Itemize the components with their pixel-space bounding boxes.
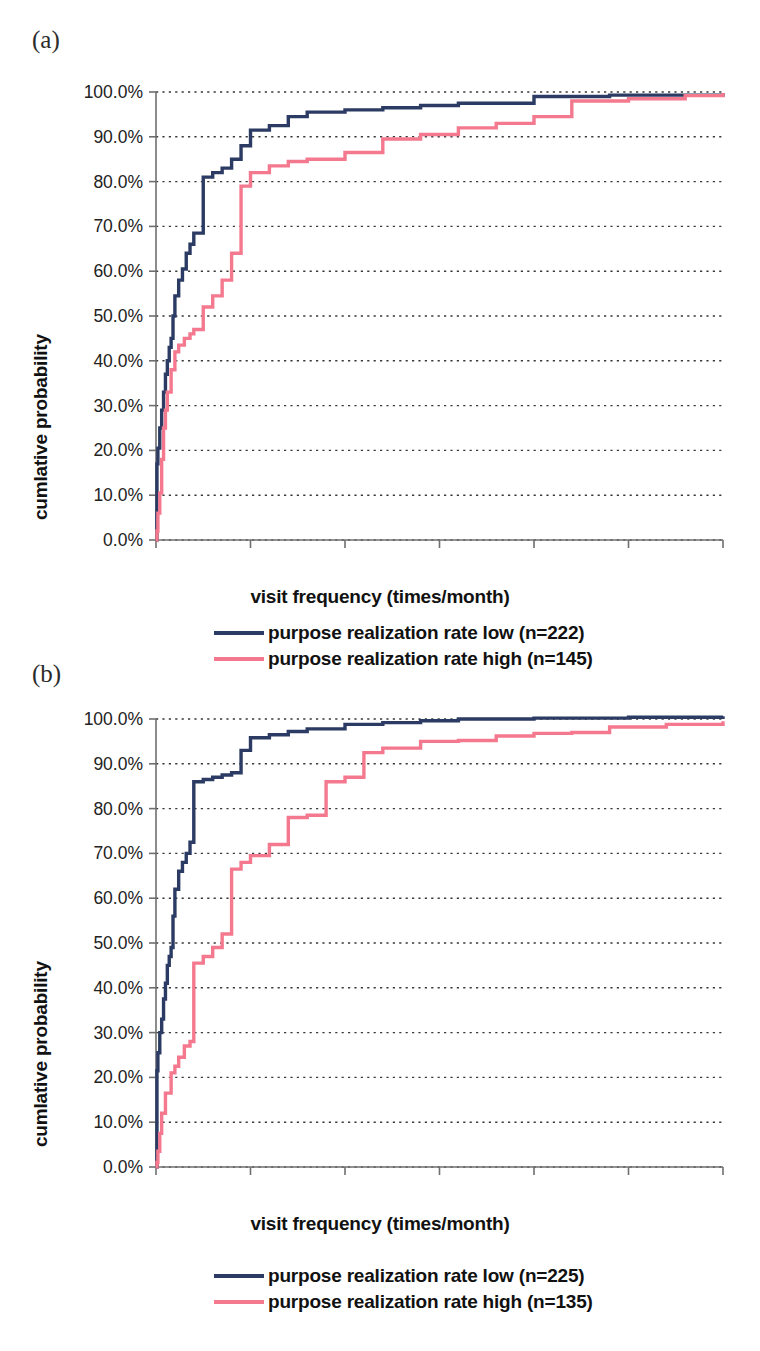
plot-area-b: 0.0%10.0%20.0%30.0%40.0%50.0%60.0%70.0%8… [0,705,760,1183]
x-axis-title-a: visit frequency (times/month) [0,586,760,608]
panel-label-b: (b) [32,660,61,688]
y-tick-label: 30.0% [93,1023,143,1043]
panel-label-a: (a) [32,26,60,54]
y-axis-title-a: cumlative probability [30,334,52,520]
legend-swatch-low-icon [214,631,264,635]
legend-label-high: purpose realization rate high (n=135) [268,1291,593,1313]
x-tick-label: 15 [430,554,449,556]
y-tick-label: 10.0% [93,1112,143,1132]
y-tick-label: 20.0% [93,440,143,460]
x-tick-label: 20 [524,1181,544,1183]
plot-area-a: 0.0%10.0%20.0%30.0%40.0%50.0%60.0%70.0%8… [0,78,760,556]
y-tick-label: 100.0% [84,82,143,102]
y-tick-label: 100.0% [84,709,143,729]
y-tick-label: 50.0% [93,933,143,953]
chart-svg-b: 0.0%10.0%20.0%30.0%40.0%50.0%60.0%70.0%8… [0,705,760,1183]
y-tick-label: 90.0% [93,754,143,774]
y-tick-label: 0.0% [103,530,143,550]
x-tick-label: 5 [246,1181,256,1183]
legend-swatch-low-icon [214,1274,264,1278]
y-tick-label: 80.0% [93,799,143,819]
y-tick-label: 30.0% [93,396,143,416]
x-tick-label: 30 [713,554,733,556]
y-tick-label: 40.0% [93,978,143,998]
series-line [156,716,723,1167]
y-tick-label: 60.0% [93,888,143,908]
y-tick-label: 90.0% [93,127,143,147]
x-axis-title-b: visit frequency (times/month) [0,1213,760,1235]
y-tick-label: 0.0% [103,1157,143,1177]
x-tick-label: 5 [246,554,256,556]
x-tick-label: 25 [619,554,638,556]
y-tick-label: 50.0% [93,306,143,326]
y-tick-label: 20.0% [93,1067,143,1087]
legend-item: purpose realization rate low (n=225) [0,1263,760,1289]
x-tick-label: 0 [151,1181,161,1183]
y-tick-label: 70.0% [93,216,143,236]
figure-panel-b: (b) 0.0%10.0%20.0%30.0%40.0%50.0%60.0%70… [0,655,760,1351]
legend-b: purpose realization rate low (n=225) pur… [0,1263,760,1315]
legend-label-low: purpose realization rate low (n=225) [268,1265,584,1287]
x-tick-label: 10 [335,1181,355,1183]
legend-label-low: purpose realization rate low (n=222) [268,622,584,644]
x-tick-label: 30 [713,1181,733,1183]
series-line [156,721,723,1167]
x-tick-label: 10 [335,554,355,556]
legend-item: purpose realization rate high (n=135) [0,1289,760,1315]
x-tick-label: 15 [430,1181,449,1183]
y-tick-label: 40.0% [93,351,143,371]
y-tick-label: 80.0% [93,172,143,192]
x-tick-label: 25 [619,1181,638,1183]
y-tick-label: 10.0% [93,485,143,505]
chart-svg-a: 0.0%10.0%20.0%30.0%40.0%50.0%60.0%70.0%8… [0,78,760,556]
figure-panel-a: (a) 0.0%10.0%20.0%30.0%40.0%50.0%60.0%70… [0,0,760,680]
y-tick-label: 60.0% [93,261,143,281]
legend-swatch-high-icon [214,1300,264,1304]
y-tick-label: 70.0% [93,843,143,863]
x-tick-label: 20 [524,554,544,556]
x-tick-label: 0 [151,554,161,556]
legend-item: purpose realization rate low (n=222) [0,620,760,646]
y-axis-title-b: cumlative probability [30,961,52,1147]
